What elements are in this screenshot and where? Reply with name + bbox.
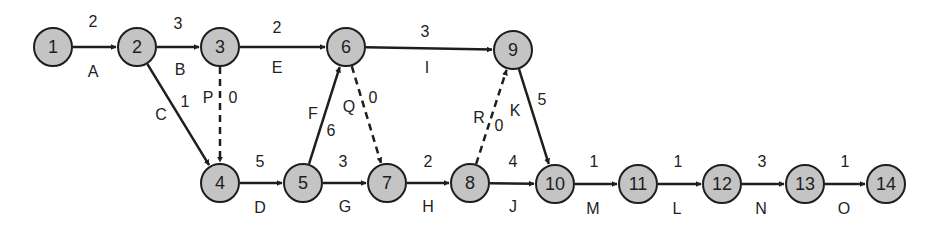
- duration-label: 0: [369, 89, 378, 107]
- duration-label: 3: [174, 15, 183, 33]
- duration-label: 2: [89, 13, 98, 31]
- activity-label: I: [425, 59, 429, 77]
- activity-label: B: [175, 61, 186, 79]
- duration-label: 2: [424, 153, 433, 171]
- node-9: 9: [493, 30, 533, 70]
- activity-label: C: [155, 106, 167, 124]
- duration-label: 3: [421, 23, 430, 41]
- duration-label: 1: [181, 93, 190, 111]
- activity-label: F: [308, 105, 318, 123]
- activity-label: N: [755, 200, 767, 218]
- duration-label: 5: [538, 91, 547, 109]
- activity-label: K: [510, 102, 521, 120]
- duration-label: 1: [841, 153, 850, 171]
- duration-label: 1: [674, 153, 683, 171]
- activity-label: Q: [343, 98, 355, 116]
- node-14: 14: [866, 164, 906, 204]
- activity-label: R: [473, 109, 485, 127]
- edge-j: [490, 183, 534, 184]
- activity-label: J: [509, 198, 517, 216]
- duration-label: 4: [509, 153, 518, 171]
- activity-label: P: [203, 89, 214, 107]
- activity-label: H: [422, 198, 434, 216]
- node-5: 5: [283, 163, 323, 203]
- activity-label: A: [88, 63, 99, 81]
- node-13: 13: [785, 164, 825, 204]
- node-1: 1: [33, 27, 73, 67]
- activity-label: L: [673, 200, 682, 218]
- network-diagram: A2B3E2C1P0I3D5F6Q0G3H2R0K5J4M1L1N3O11234…: [0, 0, 935, 228]
- activity-label: O: [838, 200, 850, 218]
- duration-label: 2: [273, 19, 282, 37]
- duration-label: 3: [758, 153, 767, 171]
- node-10: 10: [535, 164, 575, 204]
- duration-label: 1: [590, 153, 599, 171]
- node-3: 3: [200, 27, 240, 67]
- node-2: 2: [117, 27, 157, 67]
- node-6: 6: [326, 27, 366, 67]
- activity-label: D: [254, 199, 266, 217]
- edge-q: [352, 66, 381, 163]
- activity-label: G: [339, 198, 351, 216]
- node-4: 4: [200, 163, 240, 203]
- node-8: 8: [450, 163, 490, 203]
- duration-label: 5: [256, 153, 265, 171]
- node-11: 11: [618, 164, 658, 204]
- node-7: 7: [367, 163, 407, 203]
- duration-label: 0: [229, 89, 238, 107]
- activity-label: E: [272, 59, 283, 77]
- duration-label: 0: [495, 117, 504, 135]
- edge-k: [519, 69, 549, 164]
- node-12: 12: [702, 164, 742, 204]
- duration-label: 3: [339, 153, 348, 171]
- duration-label: 6: [327, 122, 336, 140]
- edge-i: [366, 47, 492, 49]
- activity-label: M: [586, 200, 599, 218]
